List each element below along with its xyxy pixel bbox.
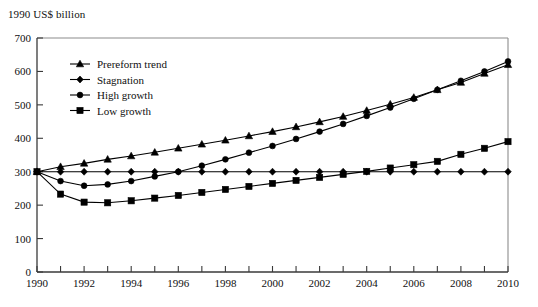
y-axis-ticks: 0100200300400500600700 [15, 32, 44, 278]
series-data-point [222, 186, 228, 192]
y-tick-label: 400 [15, 132, 32, 144]
series-data-point [340, 171, 346, 177]
series-data-point [223, 156, 229, 162]
series-data-point [434, 87, 440, 93]
series-data-point [34, 169, 40, 175]
x-tick-label: 2000 [262, 277, 285, 289]
series-data-point [269, 180, 275, 186]
x-tick-label: 2002 [309, 277, 331, 289]
x-axis-ticks: 1990199219941996199820002002200420062008… [26, 266, 520, 289]
x-tick-label: 1996 [167, 277, 190, 289]
legend-item-high-growth[interactable]: High growth [70, 89, 153, 101]
chart-figure: 1990 US$ billion 0100200300400500600700 … [0, 0, 538, 307]
series-data-point [199, 163, 205, 169]
legend-label: Prereform trend [97, 58, 167, 70]
series-data-point [104, 168, 111, 175]
series-data-point [411, 162, 417, 168]
series-data-point [222, 168, 229, 175]
series-data-point [317, 129, 323, 135]
y-tick-label: 600 [15, 65, 32, 77]
legend-marker-diamond [77, 76, 84, 83]
x-tick-label: 2008 [450, 277, 473, 289]
series-data-point [175, 169, 181, 175]
series-data-point [105, 200, 111, 206]
x-tick-label: 2006 [403, 277, 426, 289]
x-tick-label: 2004 [356, 277, 379, 289]
series-data-point [128, 178, 134, 184]
series-stagnation [34, 168, 512, 175]
series-data-point [57, 191, 63, 197]
y-tick-label: 700 [15, 32, 32, 44]
series-data-point [364, 168, 370, 174]
series-data-point [269, 168, 276, 175]
series-data-point [81, 183, 87, 189]
series-data-point [505, 168, 512, 175]
line-chart-plot: 0100200300400500600700 19901992199419961… [0, 0, 538, 307]
series-data-point [434, 158, 440, 164]
y-tick-label: 200 [15, 199, 32, 211]
series-data-point [434, 168, 441, 175]
series-data-point [458, 168, 465, 175]
series-data-point [411, 96, 417, 102]
series-data-point [481, 168, 488, 175]
series-data-point [175, 192, 181, 198]
series-data-point [387, 105, 393, 111]
x-tick-label: 1998 [214, 277, 237, 289]
series-data-point [340, 121, 346, 127]
y-tick-label: 500 [15, 99, 32, 111]
chart-legend: Prereform trendStagnationHigh growthLow … [70, 58, 167, 117]
series-data-point [246, 168, 253, 175]
x-tick-label: 1990 [26, 277, 49, 289]
series-data-point [128, 198, 134, 204]
y-tick-label: 300 [15, 166, 32, 178]
legend-label: Low growth [97, 105, 152, 117]
legend-item-stagnation[interactable]: Stagnation [70, 74, 145, 86]
series-data-point [128, 168, 135, 175]
series-data-point [152, 195, 158, 201]
series-data-point [246, 183, 252, 189]
series-data-point [505, 59, 511, 65]
series-data-point [58, 178, 64, 184]
series-data-point [387, 165, 393, 171]
series-data-point [458, 78, 464, 84]
series-data-point [293, 136, 299, 142]
series-data-point [246, 150, 252, 156]
legend-marker-circle [77, 92, 83, 98]
series-data-point [481, 145, 487, 151]
series-data-point [81, 199, 87, 205]
series-data-point [105, 182, 111, 188]
series-data-point [458, 151, 464, 157]
series-data-point [152, 173, 158, 179]
series-data-point [293, 177, 299, 183]
x-tick-label: 1994 [120, 277, 143, 289]
x-tick-label: 1992 [73, 277, 95, 289]
series-data-point [364, 113, 370, 119]
series-data-point [505, 139, 511, 145]
legend-label: Stagnation [97, 74, 145, 86]
series-data-point [317, 174, 323, 180]
series-data-point [482, 69, 488, 75]
legend-item-prereform-trend[interactable]: Prereform trend [70, 58, 167, 70]
series-data-point [81, 168, 88, 175]
series-data-point [411, 168, 418, 175]
legend-item-low-growth[interactable]: Low growth [70, 105, 152, 117]
series-data-point [199, 189, 205, 195]
legend-marker-square [77, 107, 83, 113]
series-data-point [199, 168, 206, 175]
legend-label: High growth [97, 89, 153, 101]
series-data-point [293, 168, 300, 175]
series-data-point [270, 143, 276, 149]
x-tick-label: 2010 [497, 277, 520, 289]
y-tick-label: 100 [15, 233, 32, 245]
